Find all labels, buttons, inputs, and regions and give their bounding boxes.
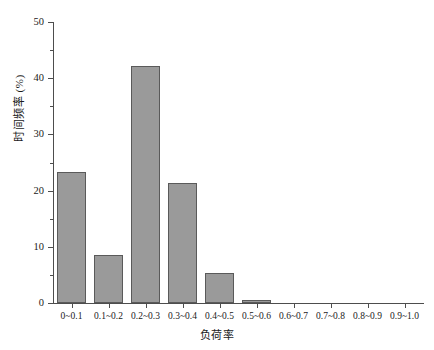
x-axis-tick-label: 0.3~0.4 — [168, 310, 197, 322]
y-axis-tick-label: 0 — [39, 296, 44, 309]
x-axis-tick-label: 0.9~1.0 — [390, 310, 419, 322]
x-axis-tick-label: 0.4~0.5 — [205, 310, 234, 322]
x-axis-tick — [405, 303, 406, 308]
x-axis-tick — [183, 303, 184, 308]
x-axis-tick-label: 0.7~0.8 — [316, 310, 345, 322]
x-axis-tick — [109, 303, 110, 308]
x-axis-tick — [257, 303, 258, 308]
y-axis-tick: 40 — [48, 78, 53, 79]
x-axis-tick — [220, 303, 221, 308]
x-axis-tick — [368, 303, 369, 308]
y-axis-tick: 30 — [48, 134, 53, 135]
y-axis-tick: 10 — [48, 247, 53, 248]
x-axis-tick-label: 0.1~0.2 — [94, 310, 123, 322]
y-axis-minor-tick — [50, 50, 53, 51]
plot-area: 01020304050 0~0.10.1~0.20.2~0.30.3~0.40.… — [53, 22, 423, 303]
y-axis-minor-tick — [50, 219, 53, 220]
x-axis-tick — [331, 303, 332, 308]
y-axis-minor-tick — [50, 163, 53, 164]
x-axis-tick — [72, 303, 73, 308]
x-axis-tick-label: 0.8~0.9 — [353, 310, 382, 322]
y-axis-line — [53, 22, 54, 303]
y-axis-minor-tick — [50, 106, 53, 107]
bar — [57, 172, 87, 303]
x-axis-tick-label: 0.5~0.6 — [242, 310, 271, 322]
x-axis-tick — [146, 303, 147, 308]
y-axis-tick-label: 40 — [34, 71, 45, 84]
y-axis-tick-label: 30 — [34, 127, 45, 140]
x-axis-tick-label: 0.2~0.3 — [131, 310, 160, 322]
bar — [205, 273, 235, 303]
y-axis-tick-label: 20 — [34, 184, 45, 197]
bar — [168, 183, 198, 303]
x-axis-tick-label: 0.6~0.7 — [279, 310, 308, 322]
y-axis-minor-tick — [50, 275, 53, 276]
y-axis-tick: 50 — [48, 22, 53, 23]
x-axis-tick-label: 0~0.1 — [61, 310, 83, 322]
x-axis-tick — [294, 303, 295, 308]
y-axis-tick: 0 — [48, 303, 53, 304]
histogram-chart: 时间频率 (%) 01020304050 0~0.10.1~0.20.2~0.3… — [0, 0, 434, 350]
bar — [94, 255, 124, 303]
y-axis-title: 时间频率 (%) — [10, 48, 26, 168]
bar — [131, 66, 161, 303]
y-axis-tick: 20 — [48, 191, 53, 192]
y-axis-tick-label: 10 — [34, 240, 45, 253]
x-axis-title: 负荷率 — [0, 326, 434, 342]
y-axis-tick-label: 50 — [34, 15, 45, 28]
bar — [242, 300, 272, 303]
